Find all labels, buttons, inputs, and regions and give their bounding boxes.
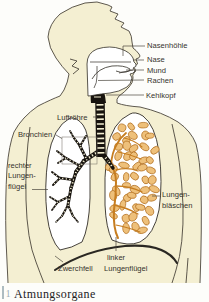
label-nasenhoehle: Nasenhöhle — [147, 41, 188, 50]
label-nase: Nase — [147, 55, 165, 64]
label-rechter-lungenfluegel-2: Lungen- — [8, 171, 36, 180]
label-rechter-lungenfluegel-3: flügel — [8, 182, 26, 191]
caption-number: 1 — [6, 289, 11, 299]
figure-caption: 1 Atmungsorgane — [2, 286, 95, 301]
respiratory-diagram: Nasenhöhle Nase Mund Rachen Kehlkopf Luf… — [0, 0, 209, 302]
label-linker-lungenfluegel-1: linker — [107, 253, 126, 262]
label-rechter-lungenfluegel-1: rechter — [8, 161, 32, 170]
label-luftroehre: Luftröhre — [57, 113, 87, 122]
label-zwerchfell: Zwerchfell — [58, 264, 93, 273]
caption-number-bar — [2, 286, 4, 299]
label-mund: Mund — [147, 66, 166, 75]
figure-atmungsorgane: Nasenhöhle Nase Mund Rachen Kehlkopf Luf… — [0, 0, 209, 302]
caption-text: Atmungsorgane — [14, 287, 96, 301]
head-cross-section — [87, 47, 136, 96]
leader-rachen — [98, 80, 144, 81]
trachea — [100, 103, 101, 157]
label-linker-lungenfluegel-2: Lungenflügel — [104, 264, 148, 273]
label-kehlkopf: Kehlkopf — [146, 91, 176, 100]
label-rachen: Rachen — [147, 76, 173, 85]
label-lungenblaeschen-2: bläschen — [162, 201, 192, 210]
label-bronchien: Bronchien — [18, 130, 52, 139]
label-lungenblaeschen-1: Lungen- — [162, 190, 190, 199]
